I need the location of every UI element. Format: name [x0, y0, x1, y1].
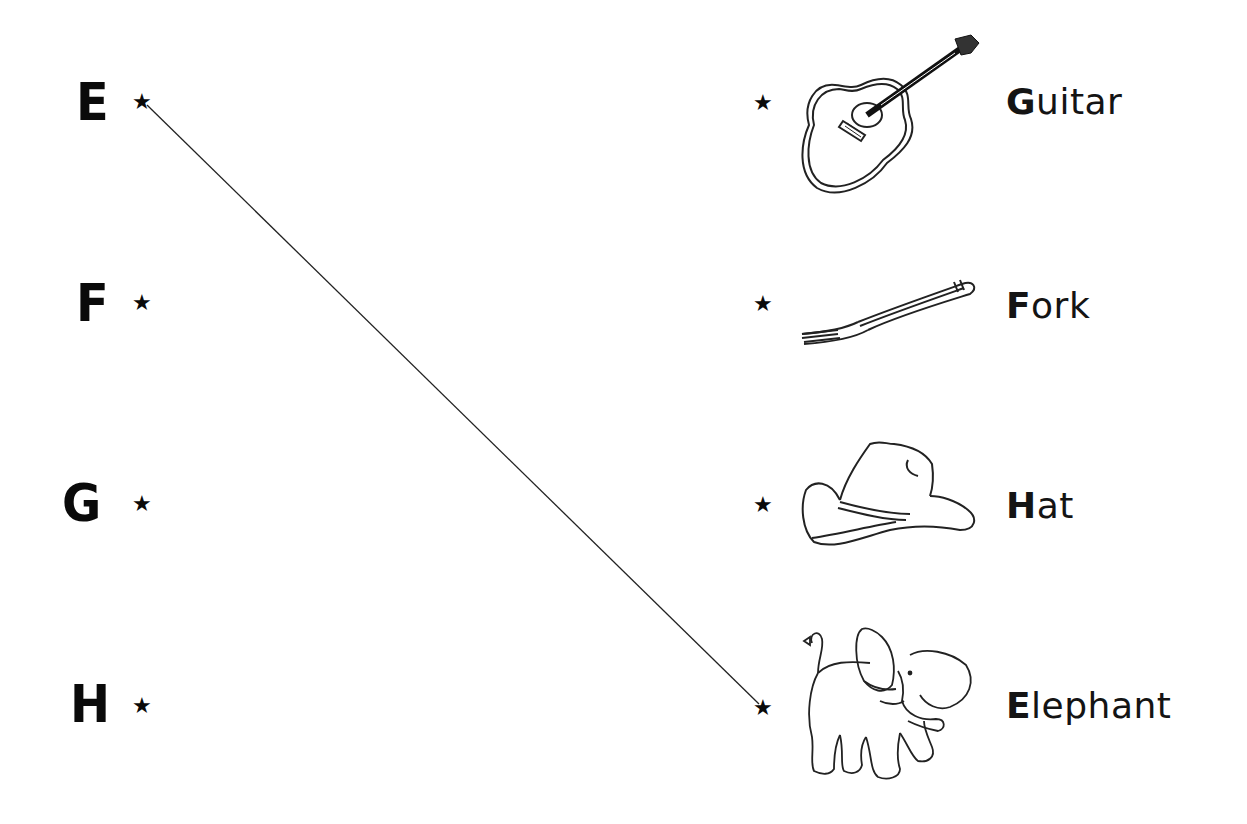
word-guitar: Guitar — [1006, 84, 1122, 120]
elephant-icon — [800, 625, 975, 785]
star-icon-h[interactable]: ★ — [132, 695, 152, 717]
star-icon-fork[interactable]: ★ — [753, 293, 773, 315]
star-icon-elephant[interactable]: ★ — [753, 697, 773, 719]
word-elephant-first-letter: E — [1006, 685, 1031, 726]
word-elephant-rest: lephant — [1031, 685, 1171, 726]
word-fork: Fork — [1006, 288, 1090, 324]
star-icon-hat[interactable]: ★ — [753, 494, 773, 516]
letter-e: E — [76, 76, 109, 128]
letter-g: G — [62, 477, 101, 529]
fork-icon — [798, 274, 978, 350]
word-hat: Hat — [1006, 488, 1074, 524]
guitar-icon — [795, 33, 985, 198]
letter-h: H — [70, 678, 110, 730]
word-hat-rest: at — [1037, 485, 1074, 526]
star-icon-g[interactable]: ★ — [132, 493, 152, 515]
word-guitar-first-letter: G — [1006, 81, 1036, 122]
word-hat-first-letter: H — [1006, 485, 1037, 526]
star-icon-f[interactable]: ★ — [132, 292, 152, 314]
star-icon-guitar[interactable]: ★ — [753, 92, 773, 114]
hat-icon — [800, 438, 978, 550]
word-fork-rest: ork — [1031, 285, 1090, 326]
star-icon-e[interactable]: ★ — [132, 91, 152, 113]
word-elephant: Elephant — [1006, 688, 1171, 724]
letter-f: F — [76, 277, 109, 329]
word-fork-first-letter: F — [1006, 285, 1031, 326]
word-guitar-rest: uitar — [1036, 81, 1122, 122]
